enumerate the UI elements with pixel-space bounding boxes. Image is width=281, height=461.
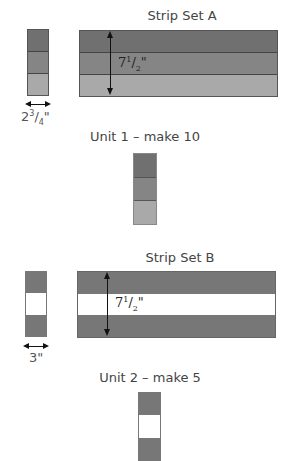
unit-2-block <box>138 392 161 461</box>
segment-light <box>134 201 156 224</box>
unit-1-title: Unit 1 – make 10 <box>75 129 215 144</box>
strip-set-b-title: Strip Set B <box>110 250 250 265</box>
segment-white <box>26 293 46 314</box>
strip-set-a-title: Strip Set A <box>112 8 252 23</box>
strip-set-b-cut-piece <box>25 271 47 337</box>
segment-light <box>28 74 48 95</box>
segment-dark <box>139 393 160 415</box>
strip-set-a-height-label: 71/2" <box>118 55 147 73</box>
unit-2-title: Unit 2 – make 5 <box>80 370 220 385</box>
segment-dark <box>139 438 160 460</box>
segment-dark <box>26 272 46 293</box>
strip-set-a-cut-width: 23/4" <box>21 109 50 127</box>
strip-set-a-strip <box>79 30 278 97</box>
segment-medium <box>134 178 156 202</box>
segment-dark <box>28 30 48 52</box>
segment-medium <box>28 52 48 74</box>
strip-set-b-height-label: 71/2" <box>115 295 144 313</box>
unit-1-block <box>133 153 157 225</box>
strip-set-b-cut-width: 3" <box>29 350 43 365</box>
segment-dark <box>134 154 156 178</box>
segment-dark <box>26 315 46 336</box>
strip-set-a-cut-piece <box>27 29 49 96</box>
segment-white <box>139 415 160 437</box>
